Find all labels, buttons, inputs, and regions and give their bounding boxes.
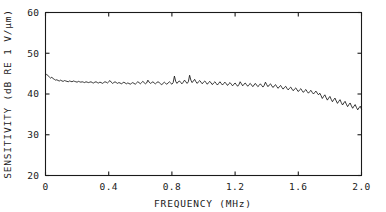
y-axis-title: SENSITIVITY (dB RE 1 V/µm): [2, 9, 13, 179]
y-tick-label: 40: [27, 88, 39, 99]
x-tick-label: 1.6: [289, 181, 307, 192]
x-tick-label: 0: [42, 181, 48, 192]
x-tick-label: 2.0: [352, 181, 370, 192]
y-tick-label: 30: [27, 129, 39, 140]
x-axis-title: FREQUENCY (MHz): [154, 198, 252, 209]
y-tick-label: 20: [27, 170, 39, 181]
y-tick-label: 50: [27, 48, 39, 59]
sensitivity-vs-frequency-chart: 00.40.81.21.62.0 2030405060 FREQUENCY (M…: [0, 0, 386, 212]
x-tick-label: 0.4: [100, 181, 118, 192]
chart-background: [0, 0, 386, 212]
y-tick-label: 60: [27, 7, 39, 18]
x-tick-label: 1.2: [226, 181, 244, 192]
x-tick-label: 0.8: [163, 181, 181, 192]
chart-container: 00.40.81.21.62.0 2030405060 FREQUENCY (M…: [0, 0, 386, 212]
